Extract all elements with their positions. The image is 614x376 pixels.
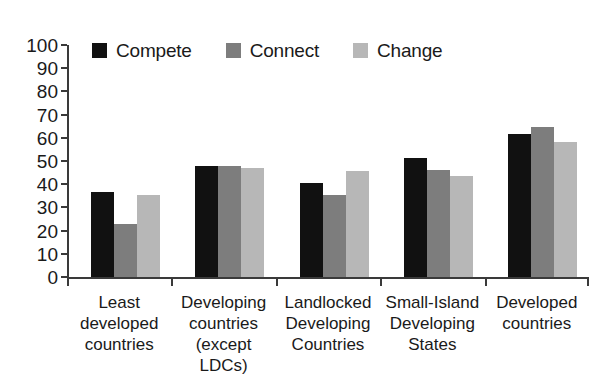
y-axis-tick-label: 80 bbox=[37, 82, 58, 101]
y-axis-tick bbox=[61, 137, 67, 139]
x-axis-tick bbox=[171, 277, 173, 286]
category-label-line: Developing bbox=[171, 292, 275, 313]
y-axis-line bbox=[67, 45, 69, 277]
category-label-line: Developing bbox=[380, 313, 484, 334]
bar-compete bbox=[404, 158, 427, 277]
bar-group bbox=[300, 45, 369, 277]
bar-change bbox=[241, 168, 264, 277]
category-label-line: developed bbox=[67, 313, 171, 334]
x-axis-line bbox=[67, 277, 589, 279]
y-axis-tick-label: 0 bbox=[47, 268, 58, 287]
bar-compete bbox=[195, 166, 218, 277]
y-axis-tick bbox=[61, 160, 67, 162]
category-label-line: Small-Island bbox=[380, 292, 484, 313]
bar-connect bbox=[218, 166, 241, 277]
category-label-line: Developing bbox=[276, 313, 380, 334]
bar-compete bbox=[300, 183, 323, 277]
bar-change bbox=[137, 195, 160, 277]
category-label: Developedcountries bbox=[485, 292, 589, 334]
y-axis-tick bbox=[61, 90, 67, 92]
bar-compete bbox=[91, 192, 114, 277]
y-axis-tick-label: 40 bbox=[37, 175, 58, 194]
category-label: Developingcountries(except LDCs) bbox=[171, 292, 275, 376]
y-axis-tick-label: 90 bbox=[37, 59, 58, 78]
category-label-line: countries bbox=[171, 313, 275, 334]
bar-connect bbox=[114, 224, 137, 277]
x-axis-tick bbox=[380, 277, 382, 286]
category-label: Leastdevelopedcountries bbox=[67, 292, 171, 355]
y-axis-tick-label: 50 bbox=[37, 152, 58, 171]
y-axis-tick bbox=[61, 67, 67, 69]
category-label-line: Developed bbox=[485, 292, 589, 313]
category-label-line: countries bbox=[67, 334, 171, 355]
bar-group bbox=[404, 45, 473, 277]
x-axis-tick bbox=[276, 277, 278, 286]
bar-group bbox=[195, 45, 264, 277]
category-label: LandlockedDevelopingCountries bbox=[276, 292, 380, 355]
y-axis-tick bbox=[61, 230, 67, 232]
x-axis-tick bbox=[587, 277, 589, 286]
y-axis-tick bbox=[61, 183, 67, 185]
category-label-line: Countries bbox=[276, 334, 380, 355]
bar-change bbox=[554, 142, 577, 277]
category-label-line: (except LDCs) bbox=[171, 334, 275, 376]
y-axis-tick bbox=[61, 44, 67, 46]
bar-group bbox=[91, 45, 160, 277]
y-axis-tick-label: 10 bbox=[37, 244, 58, 263]
y-axis-tick-label: 100 bbox=[26, 36, 58, 55]
bar-change bbox=[450, 176, 473, 277]
bar-connect bbox=[531, 127, 554, 277]
y-axis-tick bbox=[61, 253, 67, 255]
bar-compete bbox=[508, 134, 531, 277]
y-axis-tick-label: 30 bbox=[37, 198, 58, 217]
y-axis-tick bbox=[61, 206, 67, 208]
y-axis-tick bbox=[61, 114, 67, 116]
bar-group bbox=[508, 45, 577, 277]
category-label-line: countries bbox=[485, 313, 589, 334]
bar-change bbox=[346, 171, 369, 277]
y-axis-tick-label: 20 bbox=[37, 221, 58, 240]
x-axis-tick bbox=[485, 277, 487, 286]
category-label-line: States bbox=[380, 334, 484, 355]
category-label-line: Least bbox=[67, 292, 171, 313]
category-label: Small-IslandDevelopingStates bbox=[380, 292, 484, 355]
category-label-line: Landlocked bbox=[276, 292, 380, 313]
plot-area: 0102030405060708090100 bbox=[67, 45, 589, 277]
x-axis-tick bbox=[67, 277, 69, 286]
y-axis-tick-label: 70 bbox=[37, 105, 58, 124]
bar-connect bbox=[427, 170, 450, 277]
y-axis-tick-label: 60 bbox=[37, 128, 58, 147]
bar-connect bbox=[323, 195, 346, 277]
